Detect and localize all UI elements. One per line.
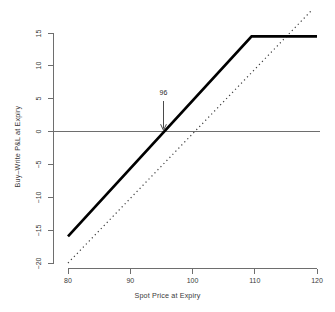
- breakeven-arrow: [161, 101, 167, 130]
- x-axis-title: Spot Price at Expiry: [0, 291, 335, 300]
- x-tick-label-90: 90: [126, 277, 134, 284]
- x-tick-label-110: 110: [249, 277, 260, 284]
- y-tick-label-15: 15: [29, 28, 49, 38]
- plot-canvas: [0, 0, 335, 312]
- y-tick-label-5: 5: [29, 94, 49, 104]
- buy-write-payoff-line: [68, 36, 317, 236]
- chart-figure: 96 15 10 5 0 −5 −10 −15 −20 80 90 100 11…: [0, 0, 335, 312]
- y-tick-label-neg15: −15: [29, 225, 49, 235]
- breakeven-annotation-label: 96: [160, 89, 168, 96]
- x-tick-label-120: 120: [311, 277, 323, 284]
- y-axis-title: Buy–Write P&L at Expiry: [13, 87, 22, 207]
- y-tick-label-0: 0: [29, 127, 49, 137]
- y-tick-label-10: 10: [29, 61, 49, 71]
- y-tick-label-neg5: −5: [29, 159, 49, 169]
- x-tick-label-100: 100: [187, 277, 199, 284]
- y-tick-label-neg20: −20: [29, 258, 49, 268]
- long-stock-payoff-line: [68, 11, 311, 263]
- x-tick-label-80: 80: [64, 277, 72, 284]
- y-tick-label-neg10: −10: [29, 192, 49, 202]
- x-axis-ticks: [68, 269, 317, 275]
